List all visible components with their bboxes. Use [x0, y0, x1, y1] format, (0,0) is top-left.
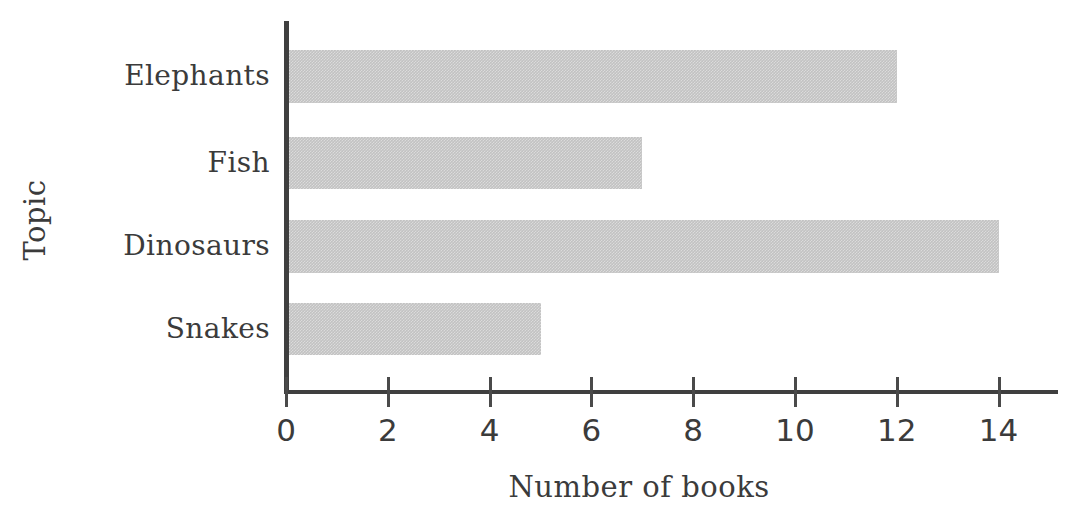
x-axis-tick-label-10: 10: [755, 415, 835, 446]
bar-snakes: [286, 303, 541, 355]
bar-fish: [286, 137, 642, 189]
x-axis-tick-label-0: 0: [246, 415, 326, 446]
x-axis-tick-label-4: 4: [450, 415, 530, 446]
x-axis-tick-4: [489, 377, 492, 407]
x-axis-tick-8: [692, 377, 695, 407]
x-axis-tick-label-12: 12: [857, 415, 937, 446]
x-axis-tick-label-8: 8: [653, 415, 733, 446]
x-axis-tick-2: [387, 377, 390, 407]
x-axis-tick-12: [896, 377, 899, 407]
x-axis-tick-label-2: 2: [348, 415, 428, 446]
x-axis-tick-14: [998, 377, 1001, 407]
x-axis-tick-0: [285, 377, 288, 407]
x-axis-tick-10: [794, 377, 797, 407]
x-axis-tick-label-6: 6: [551, 415, 631, 446]
y-axis-line: [284, 21, 289, 394]
bar-chart: Topic Elephants Fish Dinosaurs Snakes 02…: [0, 0, 1084, 524]
x-axis-tick-label-14: 14: [959, 415, 1039, 446]
x-axis-tick-6: [590, 377, 593, 407]
x-axis-title: Number of books: [284, 470, 994, 504]
plot-area: 02468101214: [0, 0, 1084, 524]
bar-elephants: [286, 50, 897, 103]
bar-dinosaurs: [286, 220, 999, 273]
x-axis-line: [284, 390, 1058, 394]
